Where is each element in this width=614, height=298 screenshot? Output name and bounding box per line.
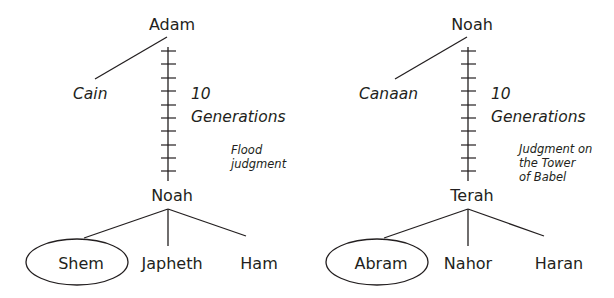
right-span-label: Generations <box>491 110 586 126</box>
left-cain-branch-line <box>95 37 167 79</box>
left-to-shem-line <box>84 209 168 238</box>
right-side-branch-label: Canaan <box>359 87 418 103</box>
left-to-ham-line <box>168 209 246 236</box>
child-ham: Ham <box>240 256 277 272</box>
right-descendant-label: Terah <box>450 188 493 204</box>
left-descendant-label: Noah <box>151 188 193 204</box>
left-root-label: Adam <box>149 17 195 33</box>
left-side-branch-label: Cain <box>73 87 107 103</box>
right-to-abram-line <box>384 209 468 238</box>
right-canaan-branch-line <box>395 37 467 79</box>
right-to-haran-line <box>468 209 544 236</box>
child-abram: Abram <box>354 256 407 272</box>
child-haran: Haran <box>535 256 583 272</box>
left-span-label: Generations <box>191 110 286 126</box>
right-root-label: Noah <box>451 17 493 33</box>
left-span-number: 10 <box>191 87 211 103</box>
child-nahor: Nahor <box>444 256 492 272</box>
right-span-number: 10 <box>491 87 511 103</box>
left-judgment-note: Flood judgment <box>231 143 286 171</box>
child-shem: Shem <box>58 256 104 272</box>
child-japheth: Japheth <box>141 256 202 272</box>
right-judgment-note: Judgment on the Tower of Babel <box>519 142 592 184</box>
